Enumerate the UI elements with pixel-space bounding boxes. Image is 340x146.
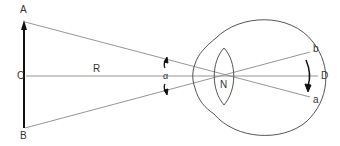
- diagram-canvas: [0, 0, 340, 146]
- eye-diagram: A C B R α N b D a: [0, 0, 340, 146]
- ray-lines: [25, 22, 318, 128]
- label-a-upper: A: [20, 5, 27, 15]
- label-b-upper: B: [20, 131, 27, 141]
- label-a-lower: a: [313, 95, 319, 105]
- label-c: C: [17, 71, 24, 81]
- label-b-lower: b: [313, 44, 319, 54]
- label-n: N: [220, 80, 227, 90]
- label-d: D: [321, 71, 328, 81]
- label-r: R: [93, 64, 100, 74]
- label-alpha: α: [163, 71, 168, 81]
